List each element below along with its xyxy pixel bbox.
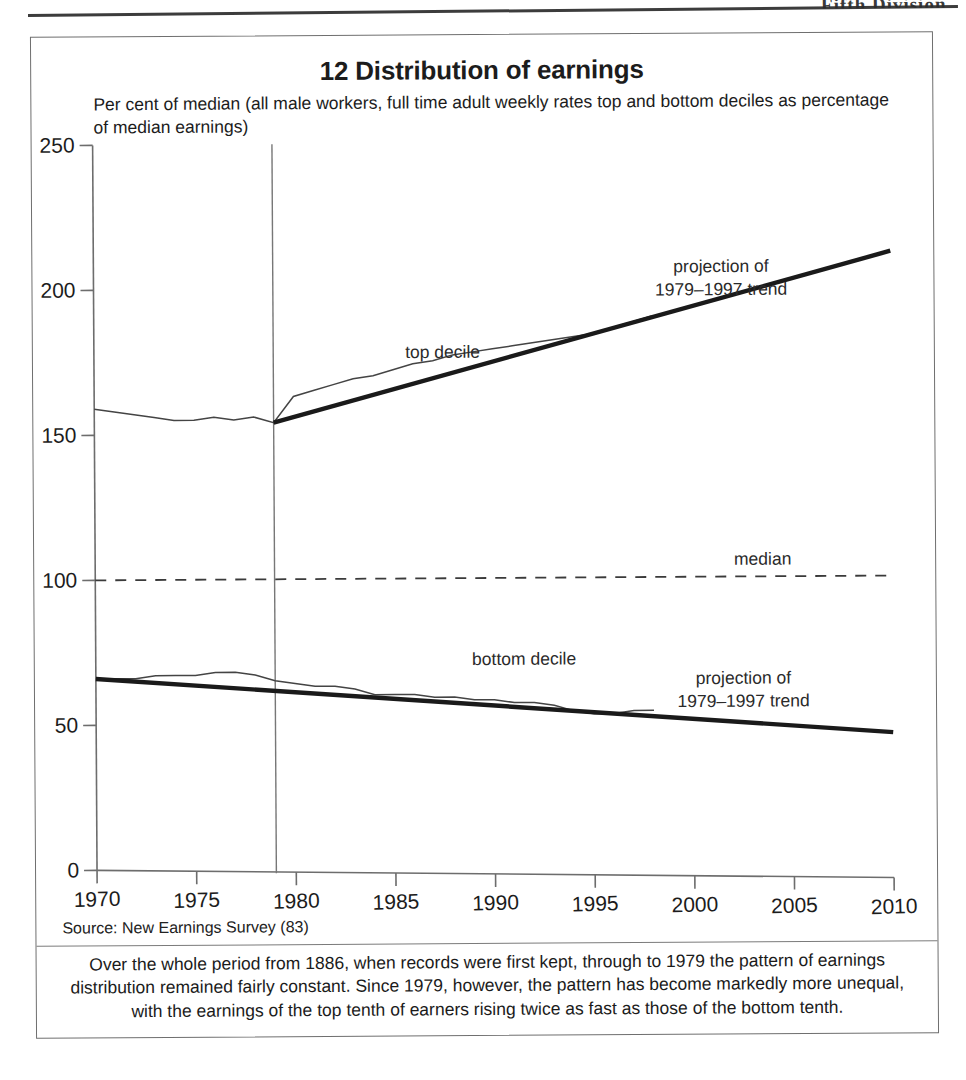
- x-tick-label: 1975: [173, 888, 220, 912]
- x-tick-label: 1985: [372, 889, 419, 913]
- figure-frame: 12 Distribution of earnings Per cent of …: [30, 31, 939, 1038]
- x-tick-label: 2000: [671, 892, 718, 916]
- chart-axes: 0501001502002501970197519801985199019952…: [39, 128, 917, 923]
- figure-caption: Over the whole period from 1886, when re…: [55, 948, 920, 1023]
- scanned-page: Fifth Division 12 Distribution of earnin…: [0, 0, 966, 1080]
- x-tick-label: 1980: [273, 889, 320, 913]
- chart-annotation-label: projection of1979–1997 trend: [677, 667, 810, 711]
- y-tick-label: 100: [42, 568, 77, 591]
- chart-annotations: top decilebottom decilemedianprojection …: [405, 256, 810, 713]
- page-header-rule: [28, 5, 958, 17]
- y-tick-label: 50: [55, 713, 78, 736]
- y-tick-label: 150: [41, 423, 76, 446]
- chart-annotation-label: bottom decile: [472, 648, 576, 669]
- y-tick-label: 250: [39, 133, 74, 156]
- series-line: [95, 576, 892, 581]
- y-tick-label: 0: [67, 858, 79, 881]
- x-tick-label: 1995: [572, 891, 619, 915]
- year-marker-line-1979: [272, 144, 276, 873]
- series-line: [273, 251, 892, 423]
- x-tick-label: 1970: [73, 887, 120, 911]
- chart-plot-area: 0501001502002501970197519801985199019952…: [31, 32, 940, 1039]
- chart-annotation-label: top decile: [405, 342, 480, 362]
- chart-annotation-label: projection of1979–1997 trend: [655, 256, 788, 300]
- x-tick-label: 2010: [870, 894, 917, 918]
- series-line: [94, 316, 653, 424]
- x-tick-label: 2005: [771, 893, 818, 917]
- earnings-distribution-line-chart: 0501001502002501970197519801985199019952…: [31, 32, 940, 1039]
- y-tick-label: 200: [40, 278, 75, 301]
- chart-annotation-label: median: [734, 549, 792, 569]
- source-note: Source: New Earnings Survey (83): [62, 918, 308, 938]
- x-tick-label: 1990: [472, 890, 519, 914]
